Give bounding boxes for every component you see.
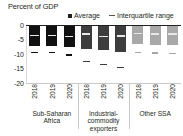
chart-legend: Average Interquartile range [68, 12, 174, 19]
x-tick-label-year: 2020 [66, 84, 73, 99]
average-marker [65, 36, 73, 38]
bar-group-1-year-2019[interactable] [46, 25, 57, 83]
average-marker [134, 33, 142, 35]
bar-group-3-year-2020[interactable] [167, 25, 178, 83]
average-marker [151, 33, 159, 35]
lower-range-marker [66, 54, 73, 55]
x-tick-label-year: 2019 [152, 84, 159, 99]
legend-item-average: Average [68, 12, 100, 19]
average-marker [82, 33, 90, 35]
x-tick-label-year: 2020 [169, 84, 176, 99]
bar-group-2-year-2020[interactable] [115, 25, 126, 83]
x-group-label: Sub-Saharan Africa [27, 110, 77, 125]
dash-marker-icon [109, 15, 115, 16]
interquartile-range-box [81, 26, 92, 49]
x-tick-label-year: 2019 [100, 84, 107, 99]
group-separator [78, 83, 79, 129]
interquartile-range-box [150, 26, 161, 45]
legend-item-interquartile-range: Interquartile range [109, 12, 174, 19]
chart-title: Percent of GDP [8, 2, 58, 11]
chart-root: Percent of GDP Average Interquartile ran… [0, 0, 183, 136]
average-marker [168, 33, 176, 35]
x-tick-label-year: 2018 [83, 84, 90, 99]
x-axis-area: 201820192020Sub-Saharan Africa2018201920… [26, 83, 181, 136]
group-separator [129, 83, 130, 129]
y-tick-label: -15 [2, 65, 24, 72]
bar-group-2-year-2019[interactable] [98, 25, 109, 83]
legend-label-interquartile-range: Interquartile range [117, 12, 174, 19]
x-tick-label-year: 2018 [31, 84, 38, 99]
x-tick-label-year: 2019 [49, 84, 56, 99]
y-tick-label: -10 [2, 51, 24, 58]
interquartile-range-box [98, 26, 109, 49]
average-marker [30, 35, 38, 37]
x-tick-label-year: 2018 [135, 84, 142, 99]
bar-group-3-year-2018[interactable] [132, 25, 143, 83]
interquartile-range-box [132, 26, 143, 44]
average-marker [48, 35, 56, 37]
lower-range-marker [117, 67, 124, 68]
x-group-label: Industrial-commodity exporters [79, 110, 129, 132]
average-marker [99, 36, 107, 38]
lower-range-marker [49, 52, 56, 53]
plot-area [26, 25, 181, 83]
y-tick-label: 0 [2, 22, 24, 29]
lower-range-marker [31, 52, 38, 53]
lower-range-marker [135, 52, 142, 53]
y-tick-label: -5 [2, 36, 24, 43]
average-marker [117, 35, 125, 37]
interquartile-range-box [167, 26, 178, 45]
y-axis-labels: 0-5-10-15-20 [0, 25, 24, 83]
interquartile-range-box [115, 26, 126, 52]
x-tick-label-year: 2020 [117, 84, 124, 99]
bar-group-1-year-2018[interactable] [29, 25, 40, 83]
y-axis-line [26, 25, 27, 83]
lower-range-marker [100, 64, 107, 65]
lower-range-marker [152, 52, 159, 53]
bar-group-1-year-2020[interactable] [64, 25, 75, 83]
lower-range-marker [83, 61, 90, 62]
x-group-label: Other SSA [130, 110, 180, 117]
lower-range-marker [169, 53, 176, 54]
y-tick-label: -20 [2, 80, 24, 87]
legend-label-average: Average [74, 12, 100, 19]
bar-group-3-year-2019[interactable] [150, 25, 161, 83]
bar-group-2-year-2018[interactable] [81, 25, 92, 83]
square-marker-icon [68, 14, 72, 18]
